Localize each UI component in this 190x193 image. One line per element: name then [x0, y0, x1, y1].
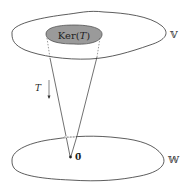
arrow-down-icon — [48, 96, 51, 100]
zero-vector-point — [69, 156, 72, 159]
linear-map-kernel-diagram: Ker(T) 0̄ T 𝕍 𝕎 — [0, 0, 190, 193]
zero-vector-label: 0̄ — [75, 152, 81, 162]
space-w-label: 𝕎 — [167, 154, 180, 165]
map-line-left-inner — [66, 136, 70, 156]
space-w-outline — [12, 136, 164, 181]
map-line-right — [77, 57, 97, 136]
map-label: T — [35, 83, 42, 93]
map-line-left — [50, 58, 66, 136]
space-v-label: 𝕍 — [169, 29, 178, 40]
kernel-left-dashed-edge — [47, 38, 50, 58]
kernel-label: Ker(T) — [58, 30, 90, 41]
